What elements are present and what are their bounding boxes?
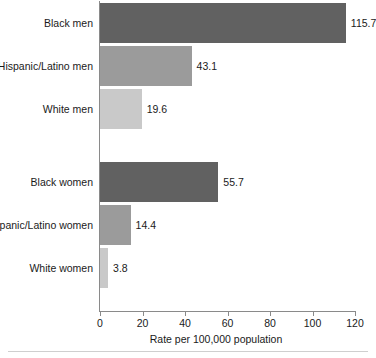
bar <box>100 89 142 129</box>
bar-row: Black women55.7 <box>100 162 355 202</box>
x-axis-tick <box>355 311 356 316</box>
bar <box>100 3 346 43</box>
x-axis-title: Rate per 100,000 population <box>0 333 376 345</box>
plot-area: Black men115.7Hispanic/Latino men43.1Whi… <box>100 0 355 311</box>
x-axis-tick-label: 40 <box>165 317 205 329</box>
bar-chart-figure: Black men115.7Hispanic/Latino men43.1Whi… <box>0 0 376 358</box>
x-axis-tick <box>313 311 314 316</box>
x-axis-tick <box>143 311 144 316</box>
value-label: 14.4 <box>131 205 156 245</box>
x-axis-tick-label: 100 <box>293 317 333 329</box>
x-axis-tick-label: 120 <box>335 317 375 329</box>
x-axis-tick <box>185 311 186 316</box>
x-axis-tick <box>228 311 229 316</box>
value-label: 3.8 <box>108 248 128 288</box>
bar-row: Black men115.7 <box>100 3 355 43</box>
bar <box>100 205 131 245</box>
x-axis-tick-label: 20 <box>123 317 163 329</box>
x-axis-tick-label: 0 <box>80 317 120 329</box>
bar-row: White women3.8 <box>100 248 355 288</box>
x-axis-tick-label: 60 <box>208 317 248 329</box>
bar-row: Hispanic/Latino men43.1 <box>100 46 355 86</box>
category-label: White women <box>0 248 93 288</box>
category-label: Black men <box>0 3 93 43</box>
bar <box>100 162 218 202</box>
value-label: 43.1 <box>192 46 217 86</box>
value-label: 55.7 <box>218 162 243 202</box>
category-label: Hispanic/Latino men <box>0 46 93 86</box>
x-axis-title-text: Rate per 100,000 population <box>150 333 283 345</box>
footer-divider <box>8 351 368 352</box>
x-axis-tick <box>270 311 271 316</box>
category-label: White men <box>0 89 93 129</box>
bar <box>100 46 192 86</box>
value-label: 115.7 <box>346 3 376 43</box>
bar-row: Hispanic/Latino women14.4 <box>100 205 355 245</box>
x-axis-tick <box>100 311 101 316</box>
category-label: Black women <box>0 162 93 202</box>
bar <box>100 248 108 288</box>
value-label: 19.6 <box>142 89 167 129</box>
category-label: Hispanic/Latino women <box>0 205 93 245</box>
x-axis-tick-label: 80 <box>250 317 290 329</box>
bar-row: White men19.6 <box>100 89 355 129</box>
